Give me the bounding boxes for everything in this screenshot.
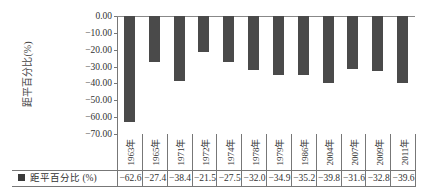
table-border xyxy=(415,134,416,170)
category-label: 2009年 xyxy=(372,139,385,166)
category-cell: 2009年 xyxy=(365,134,391,170)
category-cell: 2004年 xyxy=(316,134,342,170)
table-rule xyxy=(12,186,416,187)
value-cell: −31.6 xyxy=(341,170,367,186)
bar xyxy=(323,16,334,83)
category-label: 2007年 xyxy=(347,139,360,166)
category-cell: 1974年 xyxy=(216,134,242,170)
category-label: 1978年 xyxy=(248,139,261,166)
value-cell: −62.6 xyxy=(117,170,143,186)
bar xyxy=(273,16,284,75)
bar xyxy=(174,16,185,81)
legend-label: 距平百分比 (%) xyxy=(30,173,97,183)
value-cell: −39.6 xyxy=(390,170,416,186)
category-label: 1963年 xyxy=(124,139,137,166)
y-tick-label: −10.00 xyxy=(60,28,112,38)
category-label: 1979年 xyxy=(273,139,286,166)
bar xyxy=(124,16,135,122)
category-label: 1974年 xyxy=(223,139,236,166)
category-cell: 2007年 xyxy=(341,134,367,170)
value-cell: −34.9 xyxy=(266,170,292,186)
category-label: 1986年 xyxy=(298,139,311,166)
zero-line xyxy=(117,16,415,17)
bar xyxy=(198,16,209,52)
category-cell: 1965年 xyxy=(142,134,168,170)
bar xyxy=(223,16,234,62)
value-cell: −38.4 xyxy=(167,170,193,186)
value-cell: −32.8 xyxy=(365,170,391,186)
bar xyxy=(149,16,160,62)
value-cell: −21.5 xyxy=(192,170,218,186)
value-cell: −27.4 xyxy=(142,170,168,186)
bar xyxy=(347,16,358,69)
category-cell: 1979年 xyxy=(266,134,292,170)
category-label: 1971年 xyxy=(174,139,187,166)
category-cell: 1972年 xyxy=(192,134,218,170)
y-tick-label: −50.00 xyxy=(60,95,112,105)
bar xyxy=(248,16,259,70)
y-tick-label: 0.00 xyxy=(60,11,112,21)
y-tick-label: −40.00 xyxy=(60,78,112,88)
category-cell: 1978年 xyxy=(241,134,267,170)
value-cell: −35.2 xyxy=(291,170,317,186)
category-cell: 1986年 xyxy=(291,134,317,170)
y-tick-label: −60.00 xyxy=(60,112,112,122)
value-cell: −32.0 xyxy=(241,170,267,186)
category-label: 1965年 xyxy=(149,139,162,166)
category-cell: 2011年 xyxy=(390,134,416,170)
bar xyxy=(397,16,408,83)
y-tick-label: −30.00 xyxy=(60,62,112,72)
table-border xyxy=(415,170,416,186)
category-label: 2004年 xyxy=(323,139,336,166)
legend-swatch-icon xyxy=(18,174,25,181)
y-axis-label: 距平百分比(%) xyxy=(19,42,34,107)
category-cell: 1971年 xyxy=(167,134,193,170)
category-label: 2011年 xyxy=(397,139,410,166)
value-cell: −39.8 xyxy=(316,170,342,186)
table-rule xyxy=(12,170,416,171)
category-label: 1972年 xyxy=(198,139,211,166)
category-cell: 1963年 xyxy=(117,134,143,170)
value-cell: −27.5 xyxy=(216,170,242,186)
legend-entry: 距平百分比 (%) xyxy=(18,170,97,186)
y-tick-label: −70.00 xyxy=(60,129,112,139)
bar xyxy=(372,16,383,71)
bar xyxy=(298,16,309,75)
y-tick-label: −20.00 xyxy=(60,45,112,55)
